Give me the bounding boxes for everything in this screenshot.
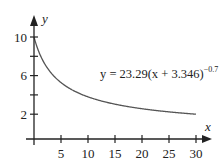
equation-annotation: y = 23.29(x + 3.346)−0.7 bbox=[100, 65, 218, 81]
equation-exponent: −0.7 bbox=[204, 65, 219, 74]
y-tick-label: 6 bbox=[21, 68, 28, 83]
x-tick-label: 10 bbox=[82, 146, 95, 161]
x-axis-label: x bbox=[204, 119, 211, 134]
x-tick-label: 15 bbox=[109, 146, 122, 161]
x-tick-label: 5 bbox=[58, 146, 65, 161]
x-tick-label: 25 bbox=[163, 146, 176, 161]
x-tick-label: 30 bbox=[190, 146, 203, 161]
y-axis-arrow-icon bbox=[30, 15, 38, 26]
x-axis bbox=[26, 135, 212, 143]
x-tick-label: 20 bbox=[136, 146, 149, 161]
y-tick-label: 10 bbox=[14, 30, 27, 45]
svg-text:y = 23.29(x + 3.346)−0.7: y = 23.29(x + 3.346)−0.7 bbox=[100, 65, 218, 81]
y-axis bbox=[30, 15, 38, 145]
chart: 51015202530 2610 x y y = 23.29(x + 3.346… bbox=[0, 0, 222, 165]
y-tick-label: 2 bbox=[21, 107, 28, 122]
x-axis-arrow-icon bbox=[202, 135, 212, 143]
y-axis-label: y bbox=[40, 11, 48, 26]
equation-text: y = 23.29(x + 3.346) bbox=[100, 67, 204, 81]
